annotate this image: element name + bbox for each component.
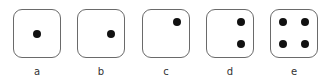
die-face-e	[270, 9, 318, 58]
die-face-d	[206, 9, 254, 58]
pip-dot	[279, 18, 287, 26]
die-label: d	[206, 66, 254, 77]
die-face-b	[77, 9, 125, 58]
pip-dot	[301, 40, 309, 48]
die-label: c	[142, 66, 190, 77]
pip-dot	[301, 18, 309, 26]
pip-dot	[173, 18, 181, 26]
die-face-a	[13, 9, 61, 58]
pip-dot	[279, 40, 287, 48]
die-label: e	[270, 66, 318, 77]
die-face-c	[142, 9, 190, 58]
pip-dot	[33, 30, 41, 38]
die-label: b	[77, 66, 125, 77]
pip-dot	[237, 40, 245, 48]
die-label: a	[13, 66, 61, 77]
pip-dot	[107, 30, 115, 38]
pip-dot	[237, 18, 245, 26]
